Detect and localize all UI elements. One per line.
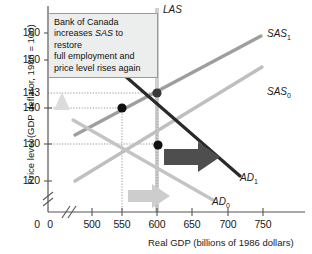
gdp-increase-arrow [128, 184, 170, 208]
x-tick-550: 550 [107, 218, 137, 230]
sas0-label-text: SAS [267, 86, 287, 97]
x-tick-700: 700 [213, 218, 243, 230]
ad0-label-sub: 0 [226, 202, 230, 209]
y-axis-title: Price level (GDP deflator, 1986 = 100) [25, 35, 36, 185]
price-rise-arrow [54, 92, 70, 110]
callout-box: Bank of Canada increases SAS to restore … [48, 13, 158, 78]
point-550-140 [117, 103, 126, 112]
callout-line-1: Bank of Canada [54, 17, 153, 28]
callout-line-3: full employment and [54, 51, 153, 62]
las-label: LAS [163, 4, 182, 15]
x-axis-title: Real GDP (billions of 1986 dollars) [148, 237, 294, 248]
ad0-label: AD0 [212, 196, 230, 209]
sas1-label-sub: 1 [287, 34, 291, 41]
ad1-label-text: AD [240, 172, 254, 183]
ad1-label-sub: 1 [254, 178, 258, 185]
sas1-label: SAS1 [267, 28, 291, 41]
x-tick-600: 600 [142, 218, 172, 230]
callout-line-2: increases SAS to restore [54, 28, 153, 51]
sas0-label-sub: 0 [287, 92, 291, 99]
y-tick-0: 0 [0, 218, 40, 230]
callout-line-2-pre: increases [54, 28, 95, 38]
ad-shift-arrow [164, 142, 220, 172]
x-tick-650: 650 [177, 218, 207, 230]
sas1-label-text: SAS [267, 28, 287, 39]
x-tick-0: 0 [40, 218, 60, 230]
callout-sas-emphasis: SAS [95, 28, 113, 38]
x-tick-500: 500 [77, 218, 107, 230]
ad0-label-text: AD [212, 196, 226, 207]
sas0-label: SAS0 [267, 86, 291, 99]
aggregate-demand-supply-chart: 160 150 143 140 130 120 0 0 500 550 600 … [0, 0, 312, 254]
point-600-130 [153, 140, 162, 149]
x-tick-750: 750 [248, 218, 278, 230]
ad1-label: AD1 [240, 172, 258, 185]
point-600-143 [152, 88, 161, 97]
callout-line-4: price level rises again [54, 63, 153, 74]
